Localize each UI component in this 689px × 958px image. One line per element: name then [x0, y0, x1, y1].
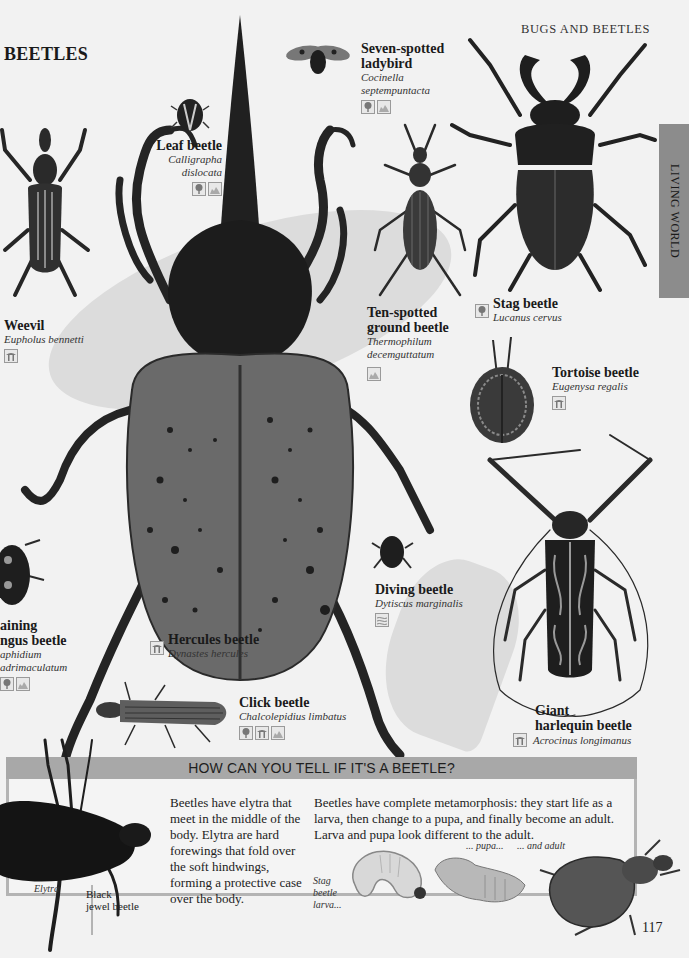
larva-label: Stag beetle larva...	[313, 875, 342, 911]
common-name: Click beetle	[239, 695, 346, 710]
common-name: ngus beetle	[0, 633, 67, 648]
latin-name: Cocinella	[361, 71, 444, 84]
larva-label-line: Stag	[313, 875, 342, 887]
forest-habitat-icon	[239, 726, 253, 740]
page-number: 117	[642, 920, 662, 936]
diving-beetle-image	[370, 528, 415, 573]
black-jewel-label-line: Black	[86, 888, 139, 900]
side-tab-label: LIVING WORLD	[667, 164, 682, 258]
latin-name: dislocata	[140, 166, 222, 179]
common-name: Diving beetle	[375, 582, 463, 597]
common-name: Leaf beetle	[140, 138, 222, 153]
latin-name: aphidium	[0, 648, 67, 661]
larva-label-line: larva...	[313, 899, 342, 911]
ladybird-image	[282, 40, 352, 80]
rainforest-habitat-icon	[513, 733, 527, 747]
black-jewel-beetle-image	[0, 735, 165, 955]
common-name: aining	[0, 618, 67, 633]
forest-habitat-icon	[0, 677, 14, 691]
grassland-habitat-icon	[377, 100, 391, 114]
tortoise-beetle-image	[465, 335, 540, 445]
rainforest-habitat-icon	[552, 396, 566, 410]
latin-name: adrimaculatum	[0, 661, 67, 674]
latin-name: Dytiscus marginalis	[375, 597, 463, 610]
adult-stag-beetle-image	[535, 835, 685, 940]
species-label-hercules-beetle: Hercules beetle Dynastes hercules	[150, 632, 259, 660]
latin-name: Eupholus bennetti	[4, 333, 84, 346]
species-label-fungus-beetle: aining ngus beetle aphidium adrimaculatu…	[0, 618, 67, 691]
fungus-beetle-image	[0, 535, 45, 615]
latin-name: Eugenysa regalis	[552, 380, 639, 393]
species-label-tortoise-beetle: Tortoise beetle Eugenysa regalis	[552, 365, 639, 410]
leaf-beetle-image	[170, 90, 210, 135]
common-name: ladybird	[361, 56, 444, 71]
elytra-description: Beetles have elytra that meet in the mid…	[170, 795, 310, 907]
larva-image	[340, 845, 430, 915]
common-name: Hercules beetle	[168, 632, 259, 647]
rainforest-habitat-icon	[150, 641, 164, 655]
harlequin-beetle-image	[470, 430, 670, 730]
grassland-habitat-icon	[367, 367, 381, 381]
common-name: Tortoise beetle	[552, 365, 639, 380]
species-label-weevil: Weevil Eupholus bennetti	[4, 318, 84, 363]
latin-name: Chalcolepidius limbatus	[239, 710, 346, 723]
species-label-diving-beetle: Diving beetle Dytiscus marginalis	[375, 582, 463, 627]
black-jewel-label-line: jewel beetle	[86, 900, 139, 912]
common-name: ground beetle	[367, 320, 449, 335]
species-label-stag-beetle: Stag beetle Lucanus cervus	[475, 296, 562, 324]
forest-habitat-icon	[361, 100, 375, 114]
grassland-habitat-icon	[16, 677, 30, 691]
latin-name: Lucanus cervus	[493, 311, 562, 324]
black-jewel-label: Black jewel beetle	[86, 888, 139, 912]
common-name: Seven-spotted	[361, 41, 444, 56]
species-label-click-beetle: Click beetle Chalcolepidius limbatus	[239, 695, 346, 740]
weevil-image	[0, 110, 95, 310]
common-name: harlequin beetle	[513, 718, 632, 733]
rainforest-habitat-icon	[4, 349, 18, 363]
common-name: Giant	[513, 703, 632, 718]
forest-habitat-icon	[475, 304, 489, 318]
larva-label-line: beetle	[313, 887, 342, 899]
species-label-harlequin-beetle: Giant harlequin beetle Acrocinus longima…	[513, 703, 632, 747]
rainforest-habitat-icon	[255, 726, 269, 740]
grassland-habitat-icon	[208, 182, 222, 196]
latin-name: Calligrapha	[140, 153, 222, 166]
grassland-habitat-icon	[271, 726, 285, 740]
elytra-label: Elytra	[34, 883, 59, 895]
freshwater-habitat-icon	[375, 613, 389, 627]
species-label-leaf-beetle: Leaf beetle Calligrapha dislocata	[140, 138, 222, 196]
side-tab-living-world[interactable]: LIVING WORLD	[659, 124, 689, 298]
latin-name: Dynastes hercules	[168, 647, 259, 660]
species-label-ground-beetle: Ten-spotted ground beetle Thermophilum d…	[367, 305, 449, 381]
latin-name: Thermophilum	[367, 335, 449, 348]
latin-name: septempuntacta	[361, 84, 444, 97]
species-label-ladybird: Seven-spotted ladybird Cocinella septemp…	[361, 41, 444, 114]
forest-habitat-icon	[192, 182, 206, 196]
common-name: Ten-spotted	[367, 305, 449, 320]
common-name: Stag beetle	[493, 296, 562, 311]
common-name: Weevil	[4, 318, 84, 333]
stag-beetle-image	[450, 25, 660, 300]
latin-name: decemguttatum	[367, 348, 449, 361]
pupa-image	[430, 850, 530, 910]
latin-name: Acrocinus longimanus	[533, 734, 631, 747]
pupa-label: ... pupa...	[466, 840, 504, 852]
